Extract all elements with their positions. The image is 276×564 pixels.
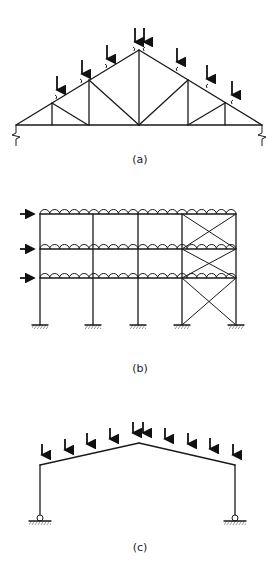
cross-bracing [182, 214, 236, 325]
pinned-support-icon [224, 515, 246, 525]
panel-label-a: (a) [110, 153, 170, 166]
portal-frame-panel-c [29, 422, 246, 525]
fixed-supports [32, 325, 244, 329]
left-top-chord [16, 50, 139, 125]
right-support-icon [258, 125, 266, 146]
truss-panel-a [12, 28, 266, 146]
structural-diagram [0, 0, 276, 564]
panel-label-c: (c) [110, 541, 170, 554]
panel-label-b: (b) [110, 362, 170, 375]
truss-point-loads [55, 28, 233, 104]
left-support-icon [12, 125, 20, 146]
rafter-point-loads [42, 422, 233, 455]
frame-panel-b [20, 210, 244, 330]
right-top-chord [139, 50, 262, 125]
lateral-loads [20, 214, 34, 278]
pinned-support-icon [29, 515, 51, 525]
left-rafter [40, 443, 139, 465]
right-rafter [139, 443, 235, 465]
